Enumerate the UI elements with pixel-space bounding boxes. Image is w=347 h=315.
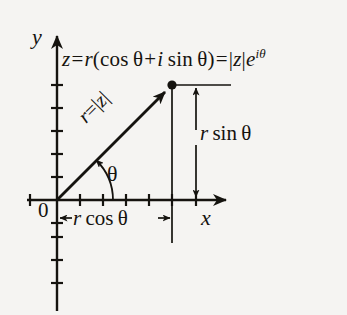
- r-sin-r: r: [200, 121, 208, 145]
- equation-exponent: iθ: [256, 46, 266, 61]
- equation-sin: sin: [168, 47, 193, 71]
- main-equation: z=r(cos θ+i sin θ)=|z|eiθ: [62, 47, 266, 70]
- equation-equals-1: =: [70, 47, 84, 71]
- r-sin-fn: sin: [212, 121, 237, 145]
- equation-e: e: [246, 47, 256, 71]
- equation-open-paren: (: [93, 47, 100, 71]
- equation-theta-2: θ: [197, 47, 207, 71]
- equation-plus: +: [143, 47, 157, 71]
- equation-close-paren: ): [208, 47, 215, 71]
- r-sin-theta: θ: [241, 121, 251, 145]
- y-axis-label: y: [32, 26, 42, 48]
- y-axis: [51, 36, 63, 311]
- x-axis-label: x: [201, 207, 211, 229]
- r-cos-theta-label: r cos θ: [73, 208, 128, 229]
- equation-z-2: z: [233, 47, 241, 71]
- equation-r: r: [84, 47, 92, 71]
- origin-label: 0: [38, 200, 49, 221]
- r-cos-r: r: [73, 206, 81, 230]
- angle-theta-label: θ: [107, 163, 118, 185]
- equation-equals-2: =: [215, 47, 229, 71]
- r-sin-theta-label: r sin θ: [200, 123, 251, 144]
- equation-i: i: [157, 47, 163, 71]
- equation-cos: cos: [100, 47, 129, 71]
- r-cos-theta: θ: [118, 206, 128, 230]
- equation-theta-1: θ: [133, 47, 143, 71]
- r-cos-fn: cos: [85, 206, 113, 230]
- complex-plane-diagram: z=r(cos θ+i sin θ)=|z|eiθ y x 0 θ r sin …: [0, 0, 347, 315]
